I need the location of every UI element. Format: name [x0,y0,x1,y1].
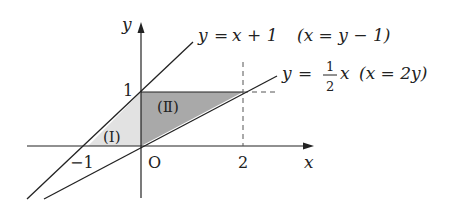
equation-line-1: y = x + 1 (x = y − 1) [197,25,390,45]
x-axis-arrow-icon [303,143,314,150]
tick-label-y-1: 1 [123,81,133,100]
tick-label-x-2: 2 [238,153,248,172]
svg-text:2: 2 [326,79,334,94]
tick-label-x-neg1: −1 [70,153,94,172]
svg-text:(x = 2y): (x = 2y) [359,63,427,83]
svg-text:y: y [281,63,292,83]
svg-text:x: x [340,63,350,83]
equation-line-2: y = 1 2 x (x = 2y) [281,59,427,94]
y-axis-label: y [121,14,132,34]
svg-text:=: = [298,63,312,83]
origin-label: O [148,153,161,172]
y-axis-arrow-icon [138,22,145,33]
svg-text:y: y [197,25,208,45]
svg-text:1: 1 [326,59,334,74]
region-2-label: (Ⅱ) [157,98,179,116]
x-axis-label: x [304,152,314,172]
svg-text:(x = y − 1): (x = y − 1) [297,25,390,45]
diagram-canvas: y x O 1 2 −1 (Ⅰ) (Ⅱ) y = x + 1 (x = y − … [0,0,464,214]
svg-text:x + 1: x + 1 [232,25,277,45]
svg-text:=: = [214,25,228,45]
region-1-label: (Ⅰ) [103,128,121,146]
